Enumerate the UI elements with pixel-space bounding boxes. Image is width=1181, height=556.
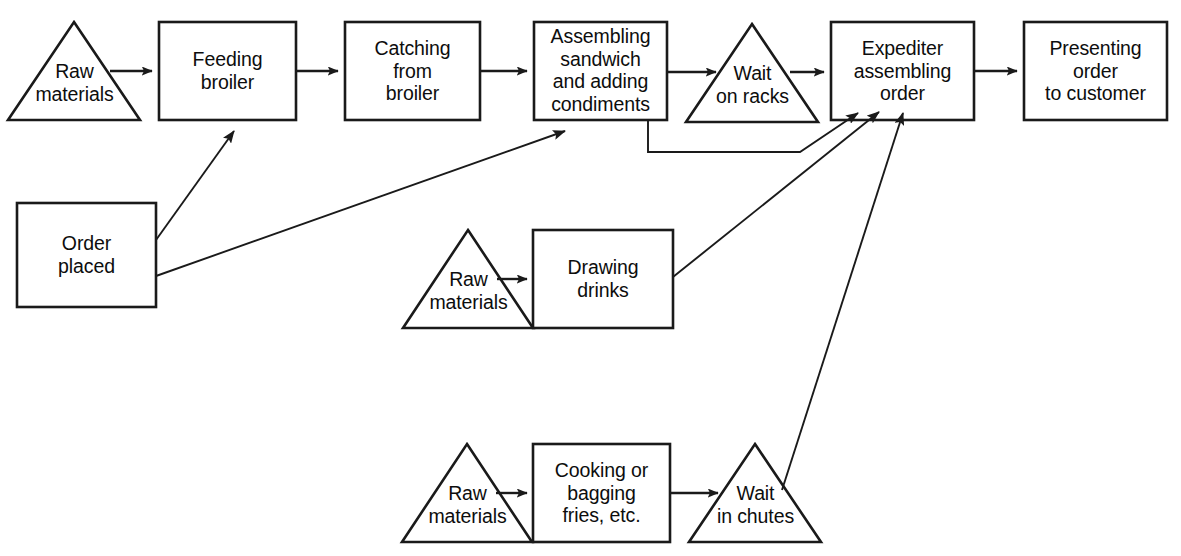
connector-chutes-to-expediter	[782, 113, 903, 490]
node-drawing-drinks	[533, 230, 673, 328]
connector-drinks-to-expediter	[673, 112, 879, 277]
node-presenting-order	[1024, 22, 1167, 120]
node-feeding-broiler	[159, 22, 296, 120]
node-expediter-assembling-order	[831, 22, 974, 120]
connector-order-to-feeding	[156, 131, 234, 240]
node-cooking-bagging-fries	[533, 444, 670, 542]
flowchart-canvas: Raw materials Feeding broiler Catching f…	[0, 0, 1181, 556]
node-assembling-sandwich	[534, 22, 667, 120]
node-catching-from-broiler	[345, 22, 480, 120]
node-order-placed	[17, 203, 156, 307]
flowchart-svg	[0, 0, 1181, 556]
